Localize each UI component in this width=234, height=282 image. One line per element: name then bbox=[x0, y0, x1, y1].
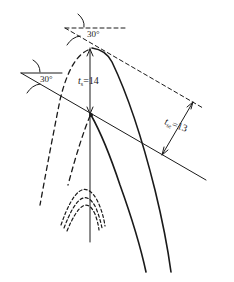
diagram-figure: 30° 30° ts=14 tse=13 bbox=[0, 0, 234, 282]
nested-dashed-arc-3 bbox=[67, 205, 99, 231]
solid-curve-inner bbox=[91, 115, 146, 272]
ts-label: ts=14 bbox=[78, 75, 99, 87]
top-angle-arc-lower bbox=[67, 36, 80, 45]
diagram-canvas: 30° 30° ts=14 tse=13 bbox=[0, 0, 234, 282]
intersection-point bbox=[89, 113, 93, 117]
left-angle-arc-upper bbox=[33, 60, 40, 72]
angle-left-label: 30° bbox=[40, 74, 53, 84]
angle-top-label: 30° bbox=[87, 29, 100, 39]
solid-curve-outer bbox=[92, 48, 171, 272]
tse-arrow-bottom bbox=[162, 147, 168, 155]
top-inclined-dashed bbox=[65, 28, 203, 108]
inner-dashed-curve bbox=[68, 116, 90, 185]
top-angle-arc-upper bbox=[78, 14, 84, 27]
left-angle-arc-lower bbox=[27, 84, 40, 93]
